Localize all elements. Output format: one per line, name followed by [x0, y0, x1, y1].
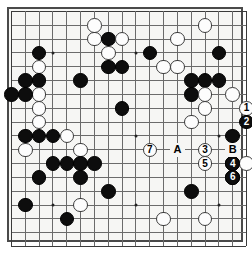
stone-layer: 1234567AB: [0, 0, 252, 253]
black-stone[interactable]: [212, 73, 227, 88]
black-stone[interactable]: [32, 73, 47, 88]
white-stone[interactable]: [32, 60, 47, 75]
white-stone[interactable]: [32, 87, 47, 102]
black-stone[interactable]: [18, 73, 33, 88]
go-board-diagram: 1234567AB: [0, 0, 252, 253]
point-label-B[interactable]: B: [225, 143, 240, 158]
move-number-2: 2: [239, 115, 252, 130]
white-stone[interactable]: [198, 212, 213, 227]
white-stone[interactable]: [60, 129, 75, 144]
black-stone[interactable]: [18, 87, 33, 102]
white-stone[interactable]: [73, 198, 88, 213]
black-stone[interactable]: [101, 60, 116, 75]
black-stone[interactable]: [184, 184, 199, 199]
black-stone[interactable]: [73, 156, 88, 171]
white-stone[interactable]: [239, 156, 252, 171]
move-number-4: 4: [225, 156, 240, 171]
black-stone[interactable]: [115, 101, 130, 116]
white-stone[interactable]: [87, 18, 102, 33]
white-stone[interactable]: [32, 101, 47, 116]
white-stone[interactable]: [73, 143, 88, 158]
black-stone[interactable]: [46, 156, 61, 171]
black-stone[interactable]: [184, 87, 199, 102]
black-stone[interactable]: [60, 212, 75, 227]
white-stone[interactable]: [170, 60, 185, 75]
black-stone[interactable]: [46, 129, 61, 144]
black-stone[interactable]: [60, 156, 75, 171]
move-number-3: 3: [198, 143, 213, 158]
black-stone[interactable]: [87, 156, 102, 171]
black-stone[interactable]: [101, 184, 116, 199]
white-stone[interactable]: [32, 115, 47, 130]
white-stone[interactable]: [115, 32, 130, 47]
black-stone[interactable]: [32, 129, 47, 144]
move-number-7: 7: [143, 143, 158, 158]
black-stone[interactable]: [73, 73, 88, 88]
black-stone[interactable]: [73, 170, 88, 185]
white-stone[interactable]: [101, 46, 116, 61]
black-stone[interactable]: [32, 170, 47, 185]
move-number-6: 6: [225, 170, 240, 185]
point-label-A[interactable]: A: [170, 143, 185, 158]
white-stone[interactable]: [87, 32, 102, 47]
white-stone[interactable]: [18, 143, 33, 158]
black-stone[interactable]: [32, 46, 47, 61]
black-stone[interactable]: [115, 60, 130, 75]
white-stone[interactable]: [198, 87, 213, 102]
white-stone[interactable]: [225, 87, 240, 102]
black-stone[interactable]: [143, 46, 158, 61]
white-stone[interactable]: [198, 18, 213, 33]
black-stone[interactable]: [198, 73, 213, 88]
black-stone[interactable]: [4, 87, 19, 102]
white-stone[interactable]: [184, 115, 199, 130]
black-stone[interactable]: [101, 32, 116, 47]
black-stone[interactable]: [18, 198, 33, 213]
white-stone[interactable]: [156, 60, 171, 75]
black-stone[interactable]: [184, 73, 199, 88]
black-stone[interactable]: [212, 46, 227, 61]
black-stone[interactable]: [225, 129, 240, 144]
move-number-1: 1: [239, 101, 252, 116]
black-stone[interactable]: [18, 129, 33, 144]
move-number-5: 5: [198, 156, 213, 171]
white-stone[interactable]: [170, 32, 185, 47]
white-stone[interactable]: [198, 101, 213, 116]
white-stone[interactable]: [156, 212, 171, 227]
